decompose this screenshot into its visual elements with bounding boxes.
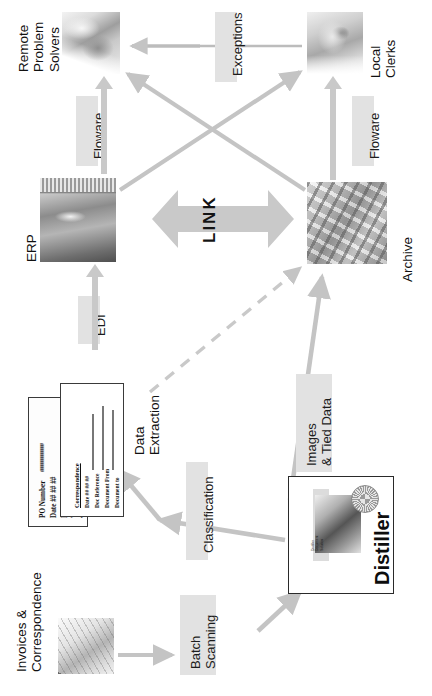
arrow-archive-to-local-clerks-body (330, 88, 336, 180)
link-double-arrow (152, 190, 294, 248)
arrow-erp-to-remote-solvers-body (101, 88, 107, 174)
arrow-batch-scanning-to-distiller (258, 592, 300, 631)
arrow-edi-to-erp-head (86, 264, 104, 277)
document-stack: PO Number ############## Date ## ## ## I… (26, 383, 138, 531)
correspondence-field-document-to: Document to (114, 477, 120, 508)
erp-photo (40, 178, 116, 262)
caption-local-clerks: Local Clerks (368, 40, 399, 78)
label-batch-scanning: Batch Scanning (189, 615, 218, 669)
label-images-tied-data: Images & Tied Data (305, 398, 334, 466)
invoice-field-po-number: PO Number (39, 481, 47, 518)
arrow-archive-to-remote-solvers (128, 74, 305, 190)
plaque-exceptions: Exceptions (215, 12, 237, 82)
invoices-correspondence-photo (58, 618, 114, 674)
correspondence-field-date: Date ## ## ## (84, 476, 90, 508)
dashed-data-to-archive (150, 268, 300, 392)
archive-photo (307, 182, 387, 264)
invoice-field-date: Date ## ## ## (50, 477, 58, 518)
label-classification: Classification (202, 476, 217, 553)
remote-problem-solvers-photo (62, 12, 120, 74)
correspondence-heading: Correspondence (73, 463, 80, 508)
caption-remote-problem-solvers: Remote Problem Solvers (16, 22, 62, 72)
invoice-po-hash: ############## (39, 444, 45, 472)
plaque-images-tied-data: Images & Tied Data (296, 374, 332, 472)
distiller-card: Distiller Document Solution Distiller (288, 476, 394, 594)
distiller-wordmark: Distiller (371, 512, 394, 585)
arrow-edi-to-erp-body (92, 276, 98, 350)
caption-erp: ERP (24, 234, 39, 262)
label-exceptions: Exceptions (231, 12, 246, 76)
plaque-floware-right: Floware (352, 96, 374, 166)
label-floware-right: Floware (368, 113, 383, 159)
correspondence-field-document-from: Document From (104, 469, 110, 508)
plaque-floware-left: Floware (76, 96, 98, 166)
arrow-erp-to-local-clerks (120, 72, 300, 190)
label-link: LINK (200, 195, 219, 243)
caption-archive: Archive (400, 237, 415, 282)
local-clerks-photo (307, 12, 363, 74)
distiller-emblem-icon (351, 485, 379, 513)
plaque-classification: Classification (186, 462, 208, 560)
correspondence-rule-2 (102, 406, 104, 470)
caption-invoices-correspondence: Invoices & Correspondence (14, 572, 45, 672)
arrow-classification-to-document (160, 520, 285, 540)
arrow-archive-to-local-clerks-head (324, 76, 342, 89)
distiller-subtitle: Distiller Document Solution (311, 536, 324, 551)
correspondence-rule-3 (112, 410, 114, 470)
correspondence-field-doc-reference: Doc Reference (94, 473, 100, 508)
correspondence-page: Correspondence Date ## ## ## Doc Referen… (60, 383, 124, 517)
plaque-batch-scanning: Batch Scanning (180, 595, 216, 675)
correspondence-rule-1 (92, 414, 94, 470)
arrow-erp-to-remote-solvers-head (95, 76, 113, 89)
